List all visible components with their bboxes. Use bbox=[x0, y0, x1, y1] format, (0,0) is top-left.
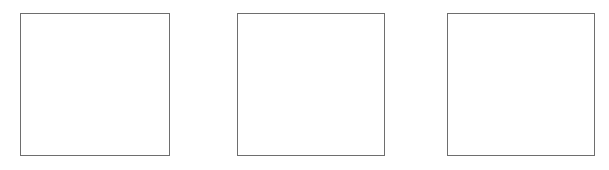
placeholder-frame-2-content bbox=[238, 14, 384, 155]
placeholder-frame-1-content bbox=[21, 14, 169, 155]
placeholder-frame-2[interactable] bbox=[237, 13, 385, 156]
placeholder-frame-3-content bbox=[448, 14, 594, 155]
placeholder-frame-1[interactable] bbox=[20, 13, 170, 156]
placeholder-frame-3[interactable] bbox=[447, 13, 595, 156]
placeholder-canvas bbox=[0, 0, 609, 170]
